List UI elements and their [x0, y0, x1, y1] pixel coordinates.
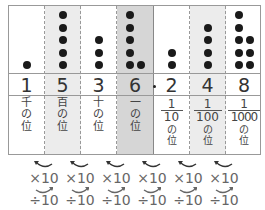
- counter-dot: [126, 61, 134, 69]
- decimal-point: [153, 85, 156, 88]
- arrow-left-icon: [213, 160, 233, 168]
- counter-dot: [235, 49, 243, 57]
- divide-by-ten-label: ÷10: [62, 192, 98, 208]
- counter-dot: [168, 49, 176, 57]
- dots-hundredths: [190, 6, 225, 73]
- counter-dot: [59, 61, 67, 69]
- digit-thousands: 1: [9, 74, 44, 96]
- label-hundreds: 百の位: [45, 97, 80, 133]
- counter-dot: [137, 61, 145, 69]
- counter-dot: [95, 49, 103, 57]
- counter-dot: [204, 24, 212, 32]
- counter-dot: [23, 61, 31, 69]
- column-hundredths: 4 1 100 の位: [190, 6, 226, 154]
- counter-dot: [168, 61, 176, 69]
- counter-dot: [59, 49, 67, 57]
- counter-dot: [59, 11, 67, 19]
- counter-dot: [95, 61, 103, 69]
- arrow-left-icon: [141, 160, 161, 168]
- counter-dot: [204, 36, 212, 44]
- counter-dot: [95, 36, 103, 44]
- counter-dot: [204, 61, 212, 69]
- arrow-left-icon: [33, 160, 53, 168]
- column-hundreds: 5 百の位: [45, 6, 81, 154]
- arrow-left-icon: [69, 160, 89, 168]
- multiply-by-ten-label: ×10: [206, 170, 242, 186]
- divider-digits-bottom: [9, 95, 260, 96]
- counter-dot: [235, 61, 243, 69]
- divide-by-ten-label: ÷10: [206, 192, 242, 208]
- label-hundredths: 1 100 の位: [190, 98, 225, 146]
- counter-dot: [235, 11, 243, 19]
- counter-dot: [246, 36, 254, 44]
- counter-dot: [235, 24, 243, 32]
- column-thousands: 1 千の位: [9, 6, 45, 154]
- multiply-by-ten-label: ×10: [98, 170, 134, 186]
- dots-tens: [81, 6, 116, 73]
- label-thousandths: 1 1000 の位: [226, 98, 262, 146]
- counter-dot: [126, 36, 134, 44]
- arrow-left-icon: [177, 160, 197, 168]
- multiply-by-ten-label: ×10: [62, 170, 98, 186]
- column-ones: 6 一の位: [117, 6, 154, 154]
- counter-dot: [204, 49, 212, 57]
- counter-dot: [59, 36, 67, 44]
- dots-thousands: [9, 6, 44, 73]
- divide-by-ten-label: ÷10: [98, 192, 134, 208]
- label-tens: 十の位: [81, 97, 116, 133]
- digit-ones: 6: [117, 74, 153, 96]
- counter-dot: [246, 61, 254, 69]
- counter-dot: [126, 11, 134, 19]
- counter-dot: [59, 24, 67, 32]
- multiply-by-ten-label: ×10: [26, 170, 62, 186]
- digit-hundreds: 5: [45, 74, 80, 96]
- counter-dot: [126, 24, 134, 32]
- digit-hundredths: 4: [190, 74, 225, 96]
- multiply-by-ten-label: ×10: [170, 170, 206, 186]
- multiply-by-ten-label: ×10: [134, 170, 170, 186]
- divide-by-ten-label: ÷10: [170, 192, 206, 208]
- digit-tens: 3: [81, 74, 116, 96]
- operations-row: ×10÷10×10÷10×10÷10×10÷10×10÷10×10÷10: [0, 160, 265, 210]
- divide-by-ten-label: ÷10: [26, 192, 62, 208]
- label-tenths: 1 10 の位: [154, 98, 189, 146]
- column-tenths: 2 1 10 の位: [154, 6, 190, 154]
- divider-digits-top: [9, 73, 260, 74]
- counter-dot: [126, 49, 134, 57]
- divide-by-ten-label: ÷10: [134, 192, 170, 208]
- digit-thousandths: 8: [226, 74, 262, 96]
- dots-thousandths: [226, 6, 262, 73]
- counter-dot: [235, 36, 243, 44]
- place-value-table: 1 千の位 5 百の位 3 十の位 6 一の位 2 1 10 の位: [8, 5, 261, 155]
- dots-hundreds: [45, 6, 80, 73]
- counter-dot: [246, 49, 254, 57]
- label-ones: 一の位: [117, 97, 153, 133]
- column-tens: 3 十の位: [81, 6, 117, 154]
- arrow-left-icon: [105, 160, 125, 168]
- column-thousandths: 8 1 1000 の位: [226, 6, 262, 154]
- label-thousands: 千の位: [9, 97, 44, 133]
- dots-ones: [117, 6, 153, 73]
- dots-tenths: [154, 6, 189, 73]
- digit-tenths: 2: [154, 74, 189, 96]
